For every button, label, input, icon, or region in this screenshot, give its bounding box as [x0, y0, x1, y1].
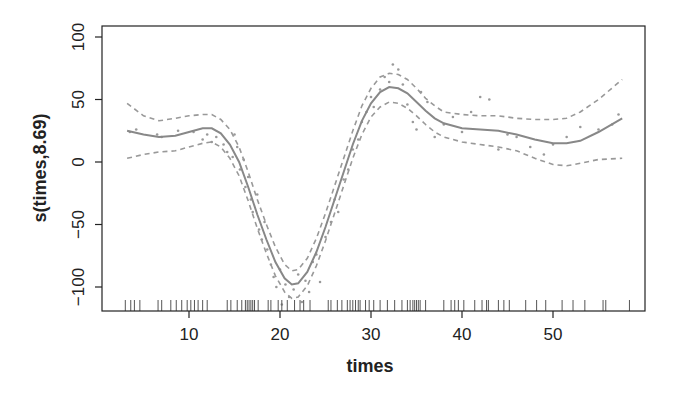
data-point — [433, 136, 436, 139]
data-point — [251, 211, 254, 214]
data-point — [226, 151, 229, 154]
data-point — [297, 273, 300, 276]
data-point — [461, 131, 464, 134]
y-tick-label: −100 — [69, 268, 88, 306]
data-point — [272, 276, 275, 279]
data-point — [388, 81, 391, 84]
data-point — [479, 96, 482, 99]
data-point — [156, 133, 159, 136]
x-axis: 1020304050 — [180, 311, 563, 344]
data-point — [324, 236, 327, 239]
data-point — [266, 248, 269, 251]
data-point — [304, 279, 307, 282]
confidence-band-line — [127, 73, 622, 270]
data-point — [415, 128, 418, 131]
data-point — [215, 136, 218, 139]
data-point — [275, 286, 278, 289]
x-tick-label: 30 — [362, 325, 381, 344]
data-point — [543, 153, 546, 156]
y-axis-title: s(times,8.69) — [30, 113, 50, 222]
y-axis: −100−50050100 — [69, 23, 102, 306]
data-point — [452, 116, 455, 119]
confidence-band-line — [127, 102, 622, 298]
x-tick-label: 10 — [180, 325, 199, 344]
x-axis-title: times — [346, 356, 393, 376]
data-point — [406, 103, 409, 106]
data-point — [258, 228, 261, 231]
data-point — [292, 288, 295, 291]
data-point — [412, 121, 415, 124]
data-point — [301, 301, 304, 304]
y-tick-label: −50 — [69, 210, 88, 239]
data-point — [263, 221, 266, 224]
data-point — [426, 101, 429, 104]
data-point — [488, 98, 491, 101]
data-point — [392, 63, 395, 66]
data-point — [470, 111, 473, 114]
data-point — [308, 291, 311, 294]
x-tick-label: 20 — [271, 325, 290, 344]
plot-frame — [102, 26, 645, 311]
data-point — [244, 186, 247, 189]
data-point — [397, 68, 400, 71]
data-point — [579, 126, 582, 129]
data-point — [515, 136, 518, 139]
y-tick-label: 100 — [69, 23, 88, 51]
data-point — [236, 146, 239, 149]
data-point — [284, 283, 287, 286]
data-point — [135, 128, 138, 131]
data-point — [222, 143, 225, 146]
data-point — [402, 83, 405, 86]
smooth-fit-line — [127, 87, 622, 285]
data-point — [497, 148, 500, 151]
data-point — [206, 133, 209, 136]
y-tick-label: 0 — [69, 157, 88, 166]
data-point — [231, 156, 234, 159]
data-point — [337, 211, 340, 214]
data-point — [617, 113, 620, 116]
fit-line — [127, 87, 622, 285]
data-point — [319, 281, 322, 284]
x-tick-label: 40 — [453, 325, 472, 344]
data-point — [529, 146, 532, 149]
x-tick-label: 50 — [544, 325, 563, 344]
data-point — [342, 178, 345, 181]
data-point — [565, 136, 568, 139]
y-tick-label: 50 — [69, 90, 88, 109]
data-point — [370, 96, 373, 99]
data-point — [201, 138, 204, 141]
data-point — [177, 129, 180, 132]
data-point — [372, 106, 375, 109]
gam-smooth-plot: 1020304050 −100−50050100 times s(times,8… — [0, 0, 680, 393]
rug-marks — [125, 300, 629, 311]
